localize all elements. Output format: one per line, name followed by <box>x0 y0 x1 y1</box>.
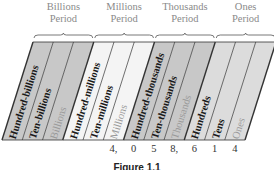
figure-caption: Figure 1.1 <box>0 162 274 170</box>
digit: 1 <box>208 143 222 154</box>
period-brace-ones <box>216 33 274 38</box>
digit: 0 <box>127 143 141 154</box>
digit: 4, <box>106 143 120 154</box>
digit: 5 <box>147 143 161 154</box>
digit: 4 <box>228 143 242 154</box>
digit: 8, <box>167 143 181 154</box>
period-brace-thousands <box>156 33 215 38</box>
period-brace-millions <box>95 33 154 38</box>
period-brace-billions <box>34 33 93 38</box>
digit: 6 <box>187 143 201 154</box>
